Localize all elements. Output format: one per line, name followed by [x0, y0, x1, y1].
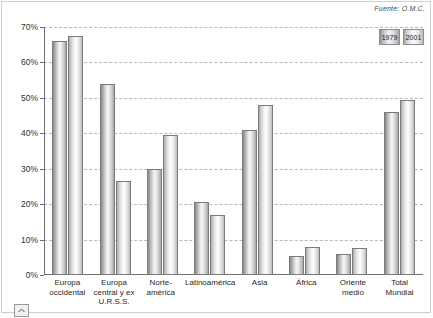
bar-group — [328, 27, 375, 275]
x-axis-category-label: Norte-américa — [137, 278, 184, 308]
bar — [52, 41, 67, 275]
bar — [210, 215, 225, 275]
bar — [116, 181, 131, 275]
bar — [384, 112, 399, 275]
x-axis-category-label: Europa occidental — [44, 278, 91, 308]
y-axis-tick-label: 50% — [0, 93, 38, 103]
chart-screenshot: Fuente: O.M.C. 1979 2001 0%10%20%30%40%5… — [0, 0, 433, 318]
bar — [400, 100, 415, 275]
bar-group — [139, 27, 186, 275]
bar — [289, 256, 304, 275]
chevron-up-icon — [18, 308, 25, 313]
bar — [68, 36, 83, 275]
bar — [242, 130, 257, 275]
y-axis-tick-label: 60% — [0, 57, 38, 67]
bar — [336, 254, 351, 275]
bar-group — [281, 27, 328, 275]
bar-groups — [44, 27, 423, 275]
bar — [147, 169, 162, 275]
bar-group — [44, 27, 91, 275]
scroll-up-button[interactable] — [14, 304, 29, 317]
x-axis-category-label: Europa central y ex U.R.S.S. — [91, 278, 138, 308]
bar — [305, 247, 320, 275]
y-tick-mark — [40, 275, 44, 276]
bar-group — [376, 27, 423, 275]
y-axis-tick-label: 10% — [0, 235, 38, 245]
source-note: Fuente: O.M.C. — [374, 5, 425, 12]
y-axis-tick-label: 70% — [0, 22, 38, 32]
x-axis-category-label: África — [283, 278, 330, 308]
y-axis-tick-label: 40% — [0, 128, 38, 138]
x-axis-category-labels: Europa occidentalEuropa central y ex U.R… — [44, 278, 423, 308]
bar — [258, 105, 273, 275]
bar-group — [186, 27, 233, 275]
bar-group — [91, 27, 138, 275]
bar — [100, 84, 115, 275]
x-axis-category-label: Asia — [236, 278, 283, 308]
bar-group — [234, 27, 281, 275]
x-axis-category-label: Total Mundial — [376, 278, 423, 308]
bar — [352, 248, 367, 275]
y-axis-tick-label: 20% — [0, 199, 38, 209]
x-axis-category-label: Latinoamérica — [184, 278, 236, 308]
bar — [194, 202, 209, 275]
x-axis-category-label: Oriente medio — [330, 278, 377, 308]
y-axis-tick-label: 0% — [0, 270, 38, 280]
y-axis-tick-label: 30% — [0, 164, 38, 174]
bar — [163, 135, 178, 275]
